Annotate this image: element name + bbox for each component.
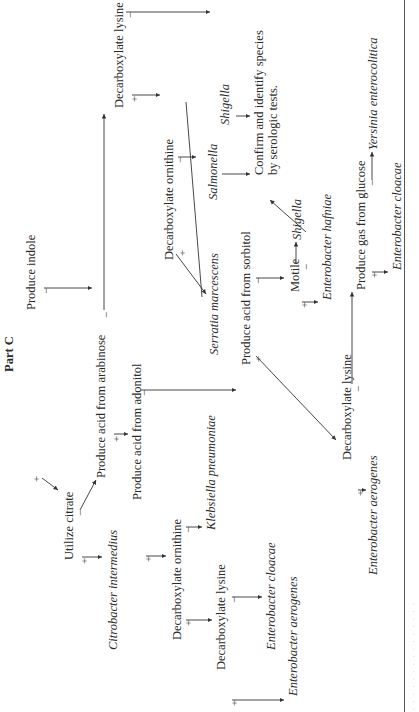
node-produce-indole: Produce indole bbox=[24, 235, 38, 310]
node-klebsiella: Klebsiella pneumoniae bbox=[204, 415, 218, 530]
node-ent-aerogenes-left: Enterobacter aerogenes bbox=[286, 576, 300, 696]
sign-plus: + bbox=[182, 620, 194, 626]
node-acid-sorbitol: Produce acid from sorbitol bbox=[239, 231, 253, 365]
sign-minus: − bbox=[352, 386, 364, 392]
node-yersinia: Yersinia enterocolitica bbox=[366, 37, 380, 150]
sign-plus: + bbox=[128, 96, 140, 102]
sign-minus: − bbox=[182, 527, 194, 533]
sign-minus: − bbox=[300, 264, 312, 270]
sign-plus: + bbox=[142, 556, 154, 562]
sign-minus: − bbox=[100, 312, 112, 318]
sign-minus: − bbox=[74, 510, 86, 516]
node-utilize-citrate: Utilize citrate bbox=[62, 492, 76, 560]
sign-minus: − bbox=[366, 180, 378, 186]
sign-plus: + bbox=[298, 302, 310, 308]
node-confirm-line2: by serologic tests. bbox=[266, 85, 280, 175]
sign-minus: − bbox=[228, 597, 240, 603]
node-ent-hafniae: Enterobacter hafniae bbox=[320, 194, 334, 300]
node-decarb-lysine-bottom: Decarboxylate lysine bbox=[340, 354, 354, 460]
sign-minus: − bbox=[252, 278, 264, 284]
flowchart-arrows bbox=[0, 0, 419, 712]
node-decarb-lysine-left: Decarboxylate lysine bbox=[214, 564, 228, 670]
sign-plus: + bbox=[30, 476, 42, 482]
sign-minus: − bbox=[138, 390, 150, 396]
node-shigella-mid: Shigella bbox=[290, 199, 304, 240]
sign-plus: + bbox=[368, 272, 380, 278]
sign-plus: + bbox=[354, 490, 366, 496]
sign-plus: + bbox=[78, 558, 90, 564]
page-title: Part C bbox=[2, 336, 16, 372]
sign-minus: − bbox=[174, 157, 186, 163]
sign-plus: + bbox=[110, 436, 122, 442]
node-decarb-lysine-top: Decarboxylate lysine bbox=[112, 2, 126, 108]
node-ent-aerogenes-bottom: Enterobacter aerogenes bbox=[366, 455, 380, 575]
node-acid-arabinose: Produce acid from arabinose bbox=[94, 335, 108, 478]
sign-plus: + bbox=[252, 356, 264, 362]
node-ent-cloacae-bottom: Enterobacter cloacae bbox=[390, 163, 404, 270]
horizontal-rule bbox=[404, 0, 405, 712]
sign-minus: − bbox=[124, 12, 136, 18]
sign-plus: + bbox=[176, 250, 188, 256]
footer-faint-text: . . . . . . . . . . . . . . . bbox=[408, 601, 416, 710]
flowchart-page: Part C Produce indole + − Utilize citrat… bbox=[0, 0, 419, 712]
sign-plus: + bbox=[228, 700, 240, 706]
node-serratia: Serratia marcescens bbox=[207, 253, 221, 355]
node-citrobacter: Citrobacter intermedius bbox=[106, 530, 120, 650]
sign-minus: − bbox=[40, 288, 52, 294]
node-ent-cloacae-left: Enterobacter cloacae bbox=[264, 543, 278, 650]
node-shigella-top: Shigella bbox=[218, 84, 232, 125]
node-confirm-line1: Confirm and identify species bbox=[252, 30, 266, 175]
node-acid-adonitol: Produce acid from adonitol bbox=[130, 364, 144, 500]
node-salmonella: Salmonella bbox=[206, 144, 220, 200]
